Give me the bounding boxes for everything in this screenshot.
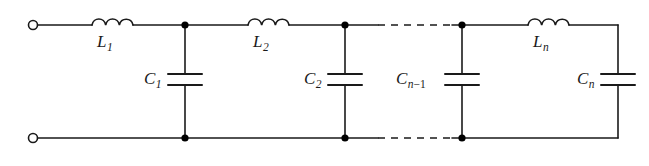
node-2-bottom [341, 134, 348, 141]
node-1-top [181, 21, 188, 28]
node-3-bottom [458, 134, 465, 141]
input-terminal-bottom [29, 134, 38, 143]
capacitor-Cn-label: Cn [577, 70, 594, 87]
inductor-Ln-coil [528, 19, 569, 25]
inductor-L1-label: L1 [97, 33, 112, 50]
inductor-L1-coil [92, 19, 133, 25]
node-2-top [341, 21, 348, 28]
input-terminal-top [29, 21, 38, 30]
capacitor-Cn-1-label: Cn−1 [396, 70, 425, 87]
inductor-L2-label: L2 [253, 33, 268, 50]
node-3-top [458, 21, 465, 28]
node-1-bottom [181, 134, 188, 141]
circuit-diagram-figure: L1 L2 Ln C1 C2 Cn−1 Cn [0, 0, 649, 166]
capacitor-C2-label: C2 [304, 70, 321, 87]
circuit-schematic-canvas [0, 0, 649, 166]
capacitor-C1-label: C1 [144, 70, 161, 87]
inductor-Ln-label: Ln [533, 33, 548, 50]
inductor-L2-coil [248, 19, 289, 25]
